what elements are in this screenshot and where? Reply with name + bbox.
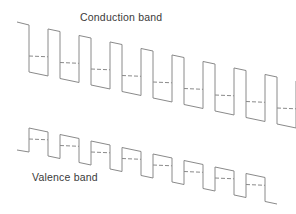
valence-subband-level <box>122 159 141 160</box>
conduction-band-profile <box>17 22 296 128</box>
conduction-subband-level <box>60 63 79 64</box>
valence-band-profile <box>17 128 277 204</box>
conduction-subband-level <box>277 108 296 109</box>
valence-subband-level <box>91 152 110 153</box>
conduction-subband-level <box>246 102 265 103</box>
conduction-subband-level <box>153 82 172 83</box>
conduction-subband-level <box>215 95 234 96</box>
conduction-subband-level <box>29 56 48 57</box>
valence-subband-level <box>29 139 48 140</box>
valence-subband-level <box>153 165 172 166</box>
conduction-subband-level <box>122 76 141 77</box>
valence-subband-level <box>60 146 79 147</box>
conduction-subband-level <box>91 69 110 70</box>
conduction-band-label: Conduction band <box>80 11 162 23</box>
valence-band-label: Valence band <box>32 171 98 183</box>
valence-subband-level <box>215 178 234 179</box>
conduction-subband-level <box>184 89 203 90</box>
valence-subband-level <box>246 185 265 186</box>
valence-subband-level <box>184 172 203 173</box>
